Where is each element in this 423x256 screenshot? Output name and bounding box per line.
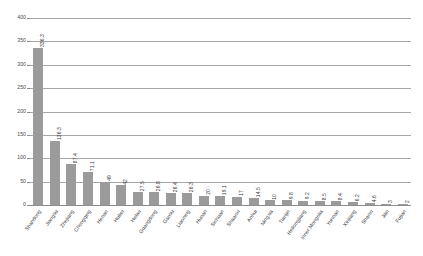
bar-slot: 14.5 bbox=[245, 18, 262, 205]
bar-value-label: 26.3 bbox=[189, 182, 194, 192]
bar[interactable] bbox=[66, 164, 76, 205]
bar-slot: 87.4 bbox=[63, 18, 80, 205]
bar-slot: 71.1 bbox=[80, 18, 97, 205]
x-axis-tick-label: Yunnan bbox=[326, 209, 341, 227]
bar-slot: 9.8 bbox=[278, 18, 295, 205]
bar-value-label: 49 bbox=[107, 175, 112, 181]
x-axis-tick-label: Gansu bbox=[162, 209, 175, 225]
bar-slot: 336.3 bbox=[30, 18, 47, 205]
bar-value-label: 9.2 bbox=[305, 192, 310, 199]
bar-value-label: 19.1 bbox=[222, 185, 227, 195]
y-axis-tick-label: 350 bbox=[0, 39, 30, 44]
bar-value-label: 14.5 bbox=[256, 187, 261, 197]
bar-value-label: 4.6 bbox=[372, 195, 377, 202]
bar[interactable] bbox=[249, 198, 259, 205]
bar-slot: 49 bbox=[96, 18, 113, 205]
x-axis-tick-label: Shaanxi bbox=[226, 209, 241, 228]
y-axis-tick-label: 150 bbox=[0, 132, 30, 137]
bar[interactable] bbox=[149, 192, 159, 205]
bar-slot: 9.2 bbox=[295, 18, 312, 205]
bar-slot: 136.3 bbox=[47, 18, 64, 205]
bar-slot: 4.6 bbox=[361, 18, 378, 205]
bar-slot: 19.1 bbox=[212, 18, 229, 205]
x-axis-tick-label: Fujian bbox=[394, 209, 407, 224]
bar-value-label: 8.5 bbox=[322, 193, 327, 200]
bar-value-label: 71.1 bbox=[90, 161, 95, 171]
x-axis-tick-label: Hunan bbox=[195, 209, 208, 225]
x-axis-tick-label: Jilin bbox=[381, 209, 391, 220]
bar-value-label: 2 bbox=[405, 200, 410, 203]
bar[interactable] bbox=[116, 185, 126, 205]
bar[interactable] bbox=[33, 48, 43, 205]
x-axis-tick-label: Hebei bbox=[130, 209, 142, 223]
bar-slot: 42 bbox=[113, 18, 130, 205]
y-axis-tick-label: 50 bbox=[0, 179, 30, 184]
bar[interactable] bbox=[365, 203, 375, 205]
bar-slot: 26.8 bbox=[146, 18, 163, 205]
bar-value-label: 3 bbox=[388, 200, 393, 203]
bar-slot: 17 bbox=[229, 18, 246, 205]
bar-value-label: 136.3 bbox=[57, 127, 62, 140]
bar[interactable] bbox=[282, 200, 292, 205]
bar[interactable] bbox=[381, 204, 391, 205]
bar[interactable] bbox=[348, 202, 358, 205]
x-axis-tick-label: Xinjiang bbox=[342, 209, 357, 227]
x-axis-tick-label: Chongqing bbox=[73, 209, 92, 233]
bar[interactable] bbox=[83, 172, 93, 205]
x-axis-tick-label: Henan bbox=[96, 209, 109, 225]
x-axis-tick-label: Anhui bbox=[246, 209, 258, 223]
bar-value-label: 87.4 bbox=[73, 153, 78, 163]
bar-slot: 26.3 bbox=[179, 18, 196, 205]
bar-slot: 8.5 bbox=[312, 18, 329, 205]
bar[interactable] bbox=[331, 201, 341, 205]
y-axis-tick-label: 100 bbox=[0, 156, 30, 161]
x-axis-tick-label: Shandong bbox=[24, 209, 42, 232]
bar-slot: 10 bbox=[262, 18, 279, 205]
x-axis-tick-label: Liaoning bbox=[176, 209, 192, 228]
bar-value-label: 27.5 bbox=[140, 181, 145, 191]
bar-value-label: 336.3 bbox=[40, 34, 45, 47]
bar[interactable] bbox=[265, 200, 275, 205]
bar[interactable] bbox=[100, 182, 110, 205]
bar-value-label: 20 bbox=[206, 189, 211, 195]
y-axis-tick-label: 200 bbox=[0, 109, 30, 114]
bar-slot: 3 bbox=[378, 18, 395, 205]
bar-chart: 050100150200250300350400 336.3136.387.47… bbox=[0, 0, 423, 256]
bar[interactable] bbox=[199, 196, 209, 205]
bar[interactable] bbox=[50, 141, 60, 205]
bar-slot: 20 bbox=[196, 18, 213, 205]
x-axis-tick-label: Ningxia bbox=[260, 209, 274, 226]
bar-slot: 6.2 bbox=[345, 18, 362, 205]
bar[interactable] bbox=[298, 201, 308, 205]
bar-value-label: 10 bbox=[272, 194, 277, 200]
y-axis-tick-label: 400 bbox=[0, 15, 30, 20]
y-axis-tick-label: 0 bbox=[0, 202, 30, 207]
y-axis-tick-mark bbox=[27, 205, 30, 206]
bar-value-label: 9.8 bbox=[289, 192, 294, 199]
bar[interactable] bbox=[215, 196, 225, 205]
bar-value-label: 17 bbox=[239, 190, 244, 196]
bar[interactable] bbox=[166, 193, 176, 205]
bar-value-label: 26.4 bbox=[173, 182, 178, 192]
bar-slot: 26.4 bbox=[163, 18, 180, 205]
bar-slot: 27.5 bbox=[129, 18, 146, 205]
bar-slot: 2 bbox=[394, 18, 411, 205]
bars-group: 336.3136.387.471.1494227.526.826.426.320… bbox=[30, 18, 411, 205]
y-axis-tick-label: 250 bbox=[0, 86, 30, 91]
x-axis-labels-group: ShandongJiangsuZhejiangChongqingHenanHub… bbox=[30, 207, 411, 256]
bar[interactable] bbox=[232, 197, 242, 205]
x-axis-tick-label: Tianjin bbox=[278, 209, 291, 225]
bar[interactable] bbox=[133, 192, 143, 205]
bar-value-label: 26.8 bbox=[156, 181, 161, 191]
x-axis-tick-label: Hubei bbox=[113, 209, 125, 223]
x-axis-tick-label: Shanxi bbox=[360, 209, 374, 225]
bar[interactable] bbox=[398, 204, 408, 205]
bar[interactable] bbox=[315, 201, 325, 205]
bar-value-label: 42 bbox=[123, 179, 128, 185]
bar-slot: 8.4 bbox=[328, 18, 345, 205]
bar-value-label: 6.2 bbox=[355, 194, 360, 201]
bar[interactable] bbox=[182, 193, 192, 205]
x-axis-tick-label: Zhejiang bbox=[60, 209, 76, 229]
y-axis-tick-label: 300 bbox=[0, 62, 30, 67]
bar-value-label: 8.4 bbox=[338, 193, 343, 200]
